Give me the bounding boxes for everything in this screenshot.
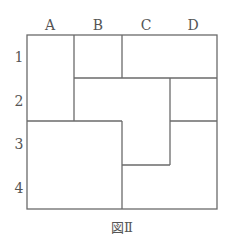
column-label-d: D: [187, 17, 198, 33]
figure-caption: 図Ⅱ: [111, 220, 133, 235]
row-label-2: 2: [15, 93, 24, 109]
column-label-b: B: [93, 17, 103, 33]
row-label-4: 4: [15, 180, 24, 196]
column-label-a: A: [44, 17, 56, 33]
grid-diagram: A B C D 1 2 3 4 図Ⅱ: [0, 0, 233, 242]
column-label-c: C: [141, 17, 152, 33]
row-label-3: 3: [15, 136, 24, 152]
partition-lines: [27, 35, 217, 209]
row-label-1: 1: [15, 49, 24, 65]
